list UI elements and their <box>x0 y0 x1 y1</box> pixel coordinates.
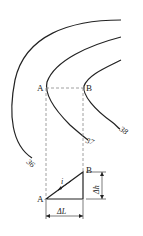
point-a-upper-label: A <box>37 83 44 93</box>
point-b-upper-label: B <box>86 83 92 93</box>
point-a-lower-label: A <box>37 194 44 204</box>
contour-label-38: 38 <box>117 124 130 137</box>
rise-arrow-top-icon <box>100 172 104 176</box>
contour-label-36: 36 <box>24 157 37 170</box>
run-arrow-left-icon <box>46 214 50 218</box>
point-b-lower-label: B <box>86 165 92 175</box>
slope-arrowhead-icon <box>57 186 62 191</box>
run-label-dl: ΔL <box>56 207 67 216</box>
rise-arrow-bottom-icon <box>100 195 104 199</box>
run-arrow-right-icon <box>79 214 83 218</box>
slope-label-i: i <box>61 177 63 186</box>
contour-slope-diagram: A B A B 36 37 38 i Δh ΔL <box>0 0 143 236</box>
rise-label-dh: Δh <box>92 185 101 195</box>
contour-line-36 <box>12 20 121 158</box>
contour-line-38 <box>84 60 121 129</box>
